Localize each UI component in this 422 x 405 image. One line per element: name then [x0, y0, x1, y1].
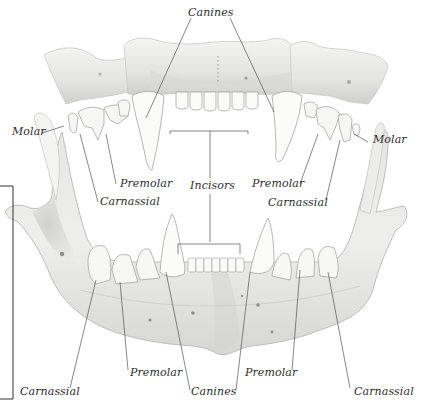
label-canines-bottom: Canines	[191, 386, 237, 398]
lower-incisors	[188, 258, 244, 272]
jaw-diagram: Canines Molar Molar Premolar Incisors Pr…	[0, 0, 422, 405]
lower-jaw	[6, 113, 407, 355]
lower-left-cheek-teeth	[88, 246, 160, 284]
label-carnassial-lower-right: Carnassial	[354, 386, 414, 398]
label-molar-right: Molar	[373, 134, 407, 146]
label-premolar-upper-right: Premolar	[252, 178, 304, 190]
label-incisors: Incisors	[190, 180, 235, 192]
lower-canine-right	[250, 218, 274, 274]
upper-canine-left	[132, 92, 164, 171]
upper-left-cheek-teeth	[68, 100, 130, 140]
lower-canine-left	[160, 214, 185, 277]
label-canines-top: Canines	[188, 7, 234, 19]
upper-incisors	[176, 92, 258, 111]
upper-right-cheek-teeth	[304, 102, 360, 142]
jaw-illustration	[0, 0, 422, 405]
label-carnassial-lower-left: Carnassial	[20, 386, 80, 398]
label-carnassial-upper-left: Carnassial	[100, 196, 160, 208]
label-premolar-upper-left: Premolar	[120, 178, 172, 190]
label-premolar-lower-left: Premolar	[130, 367, 182, 379]
upper-jaw	[44, 38, 388, 170]
label-premolar-lower-right: Premolar	[245, 367, 297, 379]
label-carnassial-upper-right: Carnassial	[268, 197, 328, 209]
upper-canine-right	[272, 92, 302, 162]
label-molar-left: Molar	[12, 126, 46, 138]
